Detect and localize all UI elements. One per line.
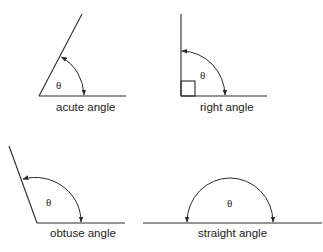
angle-types-diagram: θ acute angle θ right angle θ obtuse ang… <box>0 0 323 252</box>
obtuse-angle-panel: θ obtuse angle <box>9 146 125 239</box>
right-angle-panel: θ right angle <box>181 14 267 113</box>
acute-angle-panel: θ acute angle <box>39 14 126 113</box>
right-angle-label: right angle <box>200 101 254 113</box>
straight-angle-label: straight angle <box>198 227 267 239</box>
acute-theta-symbol: θ <box>56 79 61 91</box>
obtuse-inclined-ray <box>9 146 37 223</box>
acute-angle-label: acute angle <box>56 101 115 113</box>
obtuse-angle-arc <box>23 177 81 222</box>
obtuse-angle-label: obtuse angle <box>50 227 116 239</box>
right-angle-square-marker <box>181 81 195 96</box>
right-theta-symbol: θ <box>200 69 205 81</box>
obtuse-theta-symbol: θ <box>46 196 51 208</box>
straight-angle-panel: θ straight angle <box>143 178 322 239</box>
straight-theta-symbol: θ <box>227 197 232 209</box>
acute-angle-arc <box>62 57 85 95</box>
